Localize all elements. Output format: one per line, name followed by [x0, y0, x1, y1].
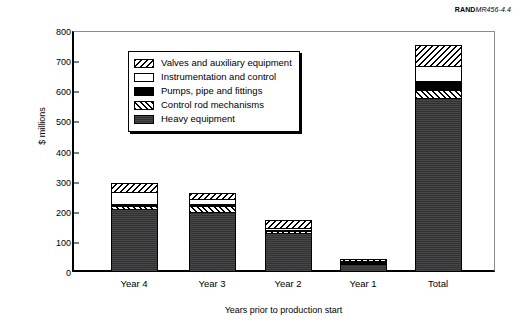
- bar-segment: [416, 81, 461, 89]
- bar-stack: [189, 193, 236, 272]
- y-tick-label: 700: [56, 57, 71, 67]
- legend-swatch-forward-diagonal-hatch: [134, 101, 154, 110]
- y-tick-mark: [74, 152, 79, 153]
- source-credit: RANDMR456-4.4: [455, 6, 511, 13]
- y-tick-label: 300: [56, 178, 71, 188]
- bar-segment: [112, 184, 157, 192]
- x-tick-label: Total: [398, 278, 478, 289]
- legend-swatch-solid-black: [134, 87, 154, 96]
- legend-item-label: Valves and auxiliary equipment: [161, 58, 292, 68]
- bar-segment: [416, 66, 461, 82]
- legend-item[interactable]: Instrumentation and control: [134, 70, 292, 84]
- x-tick-label: Year 1: [323, 278, 403, 289]
- chart-legend: Valves and auxiliary equipmentInstrument…: [128, 51, 300, 132]
- y-tick-label: 600: [56, 87, 71, 97]
- bar-stack: [265, 220, 312, 272]
- bar-segment: [266, 233, 311, 271]
- x-tick-label: Year 4: [94, 278, 174, 289]
- legend-item[interactable]: Pumps, pipe and fittings: [134, 84, 292, 98]
- x-tick-label: Year 3: [172, 278, 252, 289]
- legend-item[interactable]: Heavy equipment: [134, 112, 292, 126]
- y-tick-mark: [74, 92, 79, 93]
- bar-segment: [112, 192, 157, 204]
- legend-item[interactable]: Control rod mechanisms: [134, 98, 292, 112]
- legend-swatch-solid-dark-gray: [134, 115, 154, 124]
- legend-item-label: Pumps, pipe and fittings: [161, 86, 262, 96]
- legend-swatch-white-empty: [134, 73, 154, 82]
- y-tick-label: 0: [66, 268, 71, 278]
- bar-stack: [415, 45, 462, 272]
- y-tick-label: 100: [56, 238, 71, 248]
- y-axis-title: $ millions: [37, 81, 47, 171]
- y-tick-mark: [74, 122, 79, 123]
- x-axis-title: Years prior to production start: [72, 305, 495, 315]
- legend-item-label: Heavy equipment: [161, 114, 235, 124]
- legend-item-label: Instrumentation and control: [161, 72, 276, 82]
- bar-segment: [266, 221, 311, 228]
- legend-swatch-backward-diagonal-hatch: [134, 59, 154, 68]
- bar-stack: [111, 183, 158, 272]
- bar-stack: [340, 259, 387, 272]
- bar-segment: [416, 46, 461, 65]
- bar-segment: [341, 264, 386, 271]
- source-credit-brand: RAND: [455, 6, 476, 13]
- y-tick-mark: [74, 242, 79, 243]
- y-tick-mark: [74, 212, 79, 213]
- bar-segment: [112, 209, 157, 271]
- y-tick-label: 400: [56, 148, 71, 158]
- y-tick-label: 200: [56, 208, 71, 218]
- legend-item-label: Control rod mechanisms: [161, 100, 264, 110]
- legend-item[interactable]: Valves and auxiliary equipment: [134, 56, 292, 70]
- y-tick-label: 500: [56, 117, 71, 127]
- y-tick-label: 800: [56, 27, 71, 37]
- source-credit-document: MR456-4.4: [475, 6, 511, 13]
- y-tick-mark: [74, 182, 79, 183]
- bar-segment: [416, 90, 461, 99]
- bar-segment: [416, 98, 461, 271]
- y-tick-mark: [74, 62, 79, 63]
- x-tick-label: Year 2: [248, 278, 328, 289]
- bar-segment: [190, 212, 235, 271]
